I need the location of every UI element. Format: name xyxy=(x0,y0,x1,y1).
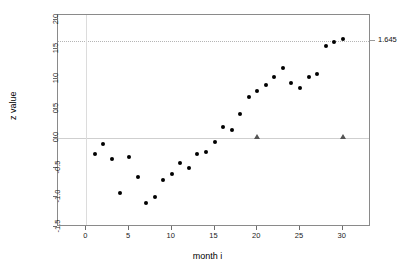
data-point-triangle xyxy=(254,134,260,139)
data-point xyxy=(289,81,293,85)
data-point xyxy=(144,201,148,205)
data-point xyxy=(101,142,105,146)
x-tick xyxy=(214,226,215,230)
x-tick xyxy=(256,226,257,230)
data-point xyxy=(307,75,311,79)
y-tick-label: 1.5 xyxy=(51,48,60,58)
data-point xyxy=(255,89,259,93)
x-tick xyxy=(85,226,86,230)
critical-value-line xyxy=(58,41,369,42)
x-tick-label: 20 xyxy=(252,231,260,240)
x-tick xyxy=(171,226,172,230)
data-point xyxy=(230,128,234,132)
data-point xyxy=(298,86,302,90)
y-tick-label: 0.5 xyxy=(51,108,60,118)
data-point xyxy=(264,83,268,87)
data-point xyxy=(110,157,114,161)
data-point xyxy=(213,140,217,144)
data-point xyxy=(324,44,328,48)
data-point xyxy=(341,37,345,41)
critical-value-tick xyxy=(370,40,375,41)
data-point xyxy=(221,125,225,129)
x-tick-label: 30 xyxy=(338,231,346,240)
data-point xyxy=(272,75,276,79)
y-tick-label: 2.0 xyxy=(51,19,60,29)
y-axis-title: z value xyxy=(8,91,18,120)
data-point xyxy=(281,66,285,70)
data-point xyxy=(247,95,251,99)
x-tick xyxy=(299,226,300,230)
data-point xyxy=(195,152,199,156)
x-tick-label: 15 xyxy=(209,231,217,240)
data-point xyxy=(238,112,242,116)
y-tick-label: -1.5 xyxy=(53,226,62,239)
plot-area xyxy=(57,14,370,226)
plot-inner xyxy=(58,15,369,225)
data-point xyxy=(204,150,208,154)
x-tick-label: 0 xyxy=(83,231,87,240)
data-point xyxy=(127,155,131,159)
x-tick xyxy=(128,226,129,230)
origin-line xyxy=(86,15,87,225)
data-point xyxy=(178,161,182,165)
data-point xyxy=(153,195,157,199)
chart-root: 051015202530 -1.5-1.0-0.50.00.51.01.52.0… xyxy=(0,0,415,275)
zero-line xyxy=(58,138,369,139)
data-point xyxy=(136,175,140,179)
data-point xyxy=(93,152,97,156)
data-point-triangle xyxy=(340,134,346,139)
data-point xyxy=(332,40,336,44)
critical-value-label: 1.645 xyxy=(378,35,397,44)
data-point xyxy=(161,178,165,182)
x-tick-label: 5 xyxy=(126,231,130,240)
x-tick xyxy=(342,226,343,230)
x-tick-label: 10 xyxy=(167,231,175,240)
y-tick-label: -1.0 xyxy=(53,196,62,209)
data-point xyxy=(118,191,122,195)
data-point xyxy=(187,166,191,170)
x-tick-label: 25 xyxy=(295,231,303,240)
y-tick-label: 1.0 xyxy=(51,78,60,88)
y-tick-label: 0.0 xyxy=(51,137,60,147)
data-point xyxy=(315,72,319,76)
y-tick-label: -0.5 xyxy=(53,167,62,180)
data-point xyxy=(170,172,174,176)
x-axis-title: month i xyxy=(0,251,415,261)
